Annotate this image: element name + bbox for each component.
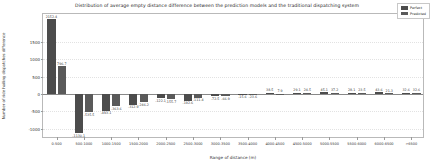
bar-predicted[interactable]: 7.9 [276,14,284,139]
bar-value-label: 43.6 [375,88,382,92]
x-tick-label: >6500 [405,142,417,146]
bar-predicted[interactable]: 21.3 [385,14,393,139]
bar-group: 2000-2500-122.1-155.7 [152,14,179,137]
bar-value-label: 796.7 [57,62,66,66]
y-tick-label: -500 [31,109,40,114]
bar-predicted[interactable]: -23.6 [249,14,257,139]
legend-swatch-perfect [401,6,408,9]
bar-group: 5000-550045.137.2 [316,14,343,137]
bar-perfect[interactable]: 45.1 [320,14,328,139]
bar-value-label: -15.6 [238,95,247,99]
x-tick-label: 5500-6000 [347,142,366,146]
bar-perfect[interactable]: 28.1 [348,14,356,139]
bar-group: 4500-500029.124.5 [289,14,316,137]
bar-group: 6000-650043.621.3 [370,14,397,137]
bar-rect [276,94,284,95]
bar-predicted[interactable]: -535.5 [85,14,93,139]
x-tick-label: 3500-4000 [238,142,257,146]
bar-rect [412,93,420,94]
bar-predicted[interactable]: 23.5 [358,14,366,139]
bar-rect [331,93,339,94]
bar-group: 3000-3500-72.5-66.9 [207,14,234,137]
bar-rect [157,94,165,98]
bar-perfect[interactable]: 2152.4 [47,14,55,139]
bar-perfect[interactable]: -122.1 [157,14,165,139]
legend-label-predicted: Predicted [410,12,426,16]
bar-predicted[interactable]: -111.4 [194,14,202,139]
bar-rect [112,94,120,107]
bar-perfect[interactable]: -493.1 [102,14,110,139]
bar-predicted[interactable]: 24.5 [303,14,311,139]
bar-predicted[interactable]: -246.2 [140,14,148,139]
x-tick-label: 2000-2500 [156,142,175,146]
bar-predicted[interactable]: -155.7 [167,14,175,139]
bar-perfect[interactable]: -15.6 [238,14,246,139]
x-tick-label: 1500-2000 [129,142,148,146]
bar-value-label: -246.2 [138,103,149,107]
bar-value-label: -312.9 [128,105,139,109]
chart-figure: Distribution of average empty distance d… [0,0,434,163]
x-tick-label: 0-500 [52,142,62,146]
bar-perfect[interactable]: -1130.1 [75,14,83,139]
y-axis-label-text: Number of ride hailing dispatches differ… [1,32,6,119]
plot-area: 150010005000-500-10000-5002152.4796.7500… [42,13,424,138]
bar-group: 1000-1500-493.1-363.6 [98,14,125,137]
legend-swatch-predicted [401,12,408,15]
legend-item-predicted: Predicted [401,12,426,16]
bar-predicted[interactable]: 32.6 [412,14,420,139]
x-tick-label: 2500-3000 [184,142,203,146]
bar-rect [184,94,192,101]
bar-predicted[interactable]: 796.7 [58,14,66,139]
bar-value-label: 29.1 [293,88,300,92]
bar-value-label: -122.1 [155,99,166,103]
x-tick-label: 4500-5000 [293,142,312,146]
bar-predicted[interactable]: -66.9 [221,14,229,139]
bar-value-label: -192.6 [183,101,194,105]
bar-value-label: -493.1 [101,111,112,115]
bar-perfect[interactable]: -312.9 [129,14,137,139]
bar-rect [102,94,110,111]
bar-rect [58,66,66,94]
bar-value-label: 2152.4 [46,15,58,19]
bar-value-label: -363.6 [111,107,122,111]
bar-value-label: 32.6 [413,88,420,92]
x-tick-label: 1000-1500 [102,142,121,146]
x-tick-label: 3000-3500 [211,142,230,146]
bar-rect [320,92,328,94]
bar-predicted[interactable]: 37.2 [331,14,339,139]
y-axis-label: Number of ride hailing dispatches differ… [0,13,8,138]
y-tick-label: 1500 [30,39,40,44]
bar-rect [385,93,393,94]
bar-value-label: -111.4 [193,98,204,102]
y-tick-label: 500 [32,74,40,79]
bar-value-label: -23.6 [249,95,258,99]
bar-perfect[interactable]: -192.6 [184,14,192,139]
bar-perfect[interactable]: 29.1 [293,14,301,139]
bar-rect [140,94,148,103]
bar-rect [348,93,356,94]
bar-predicted[interactable]: -363.6 [112,14,120,139]
bar-perfect[interactable]: -72.5 [211,14,219,139]
bar-perfect[interactable]: 38.5 [266,14,274,139]
bar-value-label: 24.5 [304,88,311,92]
legend-item-perfect: Perfect [401,6,426,10]
bar-rect [375,92,383,94]
bar-value-label: 45.1 [321,88,328,92]
bar-value-label: -535.5 [84,113,95,117]
bar-value-label: 37.2 [331,88,338,92]
bar-perfect[interactable]: 43.6 [375,14,383,139]
bar-rect [75,94,83,133]
bar-group: 500-1000-1130.1-535.5 [70,14,97,137]
x-tick-label: 500-1000 [75,142,92,146]
x-tick-label: 5000-5500 [320,142,339,146]
bar-perfect[interactable]: 32.6 [402,14,410,139]
bar-rect [47,19,55,94]
bar-value-label: 38.5 [266,88,273,92]
bar-value-label: 28.1 [348,88,355,92]
x-tick-label: 6000-6500 [375,142,394,146]
y-tick-label: 0 [37,91,40,96]
bar-group: 4000-450038.57.9 [261,14,288,137]
bar-rect [303,93,311,94]
x-axis-label: Range of distance (m) [42,155,424,160]
bar-value-label: -155.7 [166,100,177,104]
